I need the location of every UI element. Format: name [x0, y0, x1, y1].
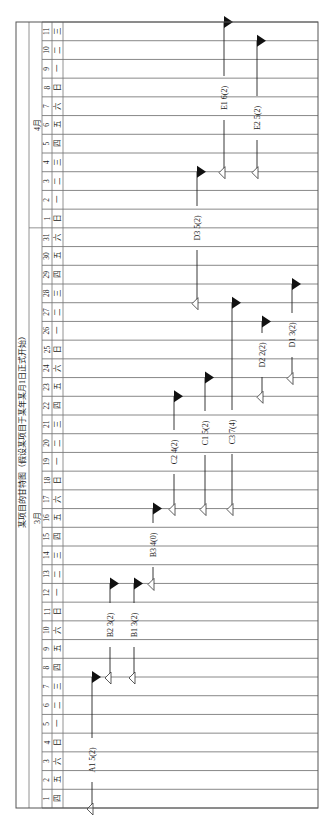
task-label: C1 5(2): [201, 420, 210, 445]
day-number: 28: [43, 289, 52, 297]
weekday-label: 四: [53, 795, 62, 802]
task-label: B3 4(0): [149, 532, 158, 557]
weekday-label: 五: [53, 382, 62, 390]
task-label: C2 4(2): [170, 439, 179, 464]
day-number: 23: [43, 383, 52, 391]
weekday-label: 日: [53, 608, 62, 615]
weekday-label: 四: [53, 533, 62, 540]
day-number: 4: [43, 740, 52, 744]
end-marker-filled-triangle-icon: [257, 35, 266, 47]
chart-title: 某项目的甘特图（假设某项目于某年某月1日正式开始）: [17, 332, 27, 528]
weekday-label: 六: [52, 364, 62, 372]
day-number: 22: [43, 402, 52, 410]
day-number: 8: [43, 85, 52, 89]
task-d2: D2 2(2): [257, 315, 271, 403]
weekday-label: 一: [53, 326, 62, 334]
task-c2: C2 4(2): [169, 390, 183, 515]
start-marker-hollow-triangle-icon: [87, 803, 93, 815]
weekday-label: 三: [53, 290, 62, 297]
day-number: 20: [43, 439, 52, 447]
weekday-label: 一: [53, 719, 62, 727]
task-label: E2 5(2): [253, 106, 262, 131]
start-marker-hollow-triangle-icon: [105, 672, 111, 684]
weekday-label: 三: [53, 159, 62, 166]
weekday-label: 六: [52, 102, 62, 110]
day-gridlines: [42, 22, 318, 808]
day-number: 5: [43, 722, 52, 726]
day-number: 14: [43, 551, 52, 559]
task-c3: C3 7(4): [227, 297, 241, 516]
start-marker-hollow-triangle-icon: [192, 298, 198, 310]
day-number: 13: [43, 570, 52, 578]
weekday-label: 日: [53, 215, 62, 222]
weekday-label: 三: [53, 552, 62, 559]
weekday-label: 六: [52, 233, 62, 241]
day-number: 5: [43, 142, 52, 146]
end-marker-filled-triangle-icon: [134, 577, 143, 589]
task-bars: A1 5(2)B2 3(2)B1 3(2)B3 4(0)C2 4(2)C1 5(…: [87, 16, 301, 815]
day-number: 18: [43, 477, 52, 485]
task-label: B2 3(2): [106, 612, 115, 637]
weekday-label: 二: [53, 308, 62, 316]
task-b1: B1 3(2): [129, 577, 143, 684]
end-marker-filled-triangle-icon: [153, 503, 162, 515]
task-label: D2 2(2): [258, 342, 267, 367]
weekday-label: 五: [53, 644, 62, 652]
end-marker-filled-triangle-icon: [292, 278, 301, 290]
weekday-label: 一: [53, 64, 62, 72]
task-label: D1 3(2): [288, 322, 297, 347]
task-a1: A1 5(2): [87, 671, 101, 815]
start-marker-hollow-triangle-icon: [219, 167, 225, 179]
day-number: 1: [43, 797, 52, 801]
weekday-label: 一: [53, 588, 62, 596]
weekday-label: 三: [53, 683, 62, 690]
weekday-label: 二: [53, 46, 62, 54]
start-marker-hollow-triangle-icon: [148, 578, 154, 590]
day-number: 19: [43, 458, 52, 466]
day-number: 27: [43, 308, 52, 316]
weekday-label: 五: [53, 775, 62, 783]
end-marker-filled-triangle-icon: [262, 315, 271, 327]
task-label: B1 3(2): [130, 612, 139, 637]
task-b2: B2 3(2): [105, 577, 119, 684]
weekday-label: 六: [52, 626, 62, 634]
weekday-label: 五: [53, 120, 62, 128]
start-marker-hollow-triangle-icon: [169, 504, 175, 516]
day-number: 9: [43, 647, 52, 651]
end-marker-filled-triangle-icon: [174, 390, 183, 402]
day-number: 11: [43, 608, 52, 615]
day-number: 15: [43, 533, 52, 541]
day-number: 3: [43, 179, 52, 183]
day-number: 3: [43, 759, 52, 763]
weekday-label: 四: [53, 271, 62, 278]
month-label: 4月: [33, 119, 42, 131]
weekday-label: 一: [53, 457, 62, 465]
day-number: 25: [43, 346, 52, 354]
weekday-label: 日: [53, 84, 62, 91]
weekday-label: 二: [53, 570, 62, 578]
task-d1: D1 3(2): [287, 278, 301, 385]
task-e2: E2 5(2): [252, 35, 266, 179]
day-number: 4: [43, 160, 52, 164]
weekday-label: 二: [53, 701, 62, 709]
day-number: 6: [43, 703, 52, 707]
day-number: 10: [43, 626, 52, 634]
day-number: 8: [43, 666, 52, 670]
day-number: 11: [43, 28, 52, 35]
end-marker-filled-triangle-icon: [110, 577, 119, 589]
start-marker-hollow-triangle-icon: [287, 373, 293, 385]
day-number: 17: [43, 495, 52, 503]
day-number: 2: [43, 778, 52, 782]
weekday-label: 一: [53, 195, 62, 203]
month-label: 3月: [33, 512, 42, 524]
weekday-label: 五: [53, 251, 62, 259]
weekday-label: 日: [53, 477, 62, 484]
day-number: 26: [43, 327, 52, 335]
end-marker-filled-triangle-icon: [205, 372, 214, 384]
day-number: 9: [43, 67, 52, 71]
start-marker-hollow-triangle-icon: [257, 391, 263, 403]
end-marker-filled-triangle-icon: [232, 297, 241, 309]
weekday-label: 四: [53, 664, 62, 671]
day-number: 31: [43, 233, 52, 241]
weekday-label: 五: [53, 513, 62, 521]
